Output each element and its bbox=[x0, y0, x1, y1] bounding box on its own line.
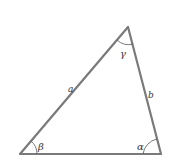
side-a-label: a bbox=[68, 84, 73, 94]
angle-beta-label: β bbox=[37, 141, 44, 152]
triangle bbox=[20, 27, 161, 154]
side-b-label: b bbox=[148, 90, 154, 100]
side-b bbox=[128, 27, 161, 154]
triangle-diagram: a b β γ α bbox=[0, 0, 175, 163]
angle-gamma-label: γ bbox=[120, 48, 126, 59]
side-a bbox=[20, 27, 128, 154]
angle-beta-arc bbox=[31, 141, 37, 154]
angle-alpha-label: α bbox=[137, 141, 144, 152]
angle-alpha-arc bbox=[143, 139, 157, 154]
